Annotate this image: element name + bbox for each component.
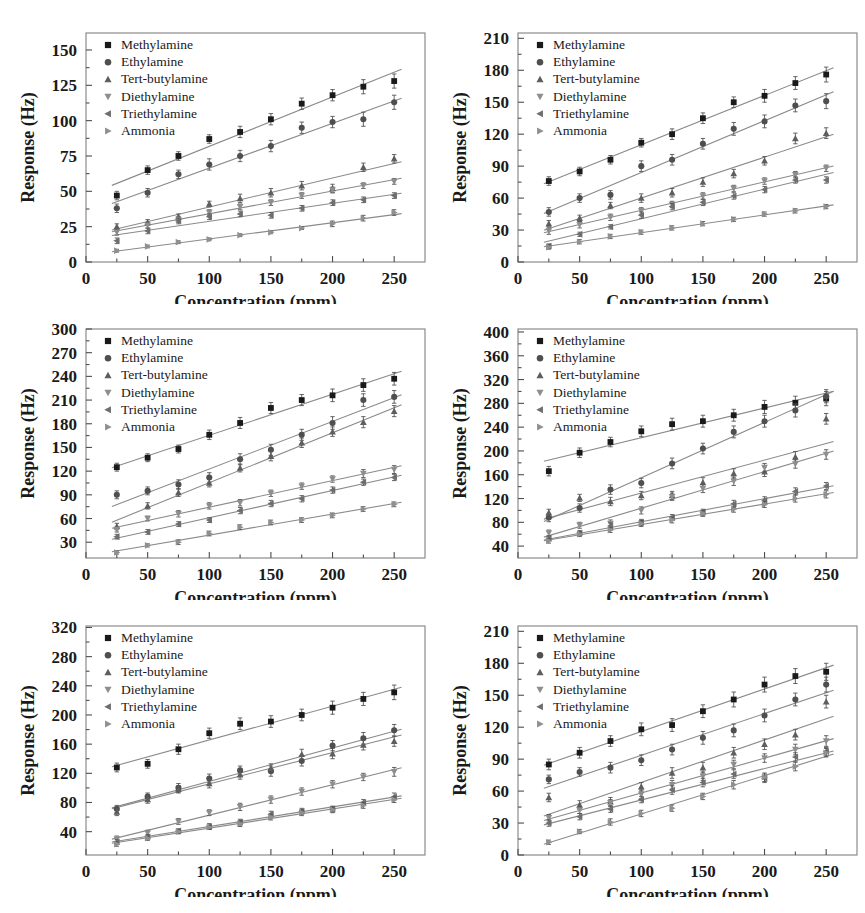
legend-label-triethylamine: Triethylamine: [121, 106, 197, 121]
y-axis-title-group: Response (Hz): [18, 685, 39, 796]
legend-marker-filled-triangle-up: [536, 372, 543, 379]
series-triethylamine: [545, 177, 829, 250]
x-tick-label: 0: [82, 862, 91, 881]
fit-line-tert-butylamine: [544, 716, 834, 816]
data-point: [546, 776, 552, 782]
x-tick-label: 250: [381, 269, 407, 288]
legend-label-tert-butylamine: Tert-butylamine: [553, 664, 640, 679]
data-point: [206, 201, 213, 207]
data-point: [175, 482, 181, 488]
data-point: [638, 508, 645, 514]
y-tick-label: 0: [501, 253, 510, 272]
y-tick-label: 240: [52, 677, 78, 696]
data-point: [669, 421, 675, 427]
legend: MethylamineEthylamineTert-butylamineDiet…: [104, 37, 208, 138]
legend-label-ammonia: Ammonia: [121, 123, 175, 138]
data-point: [762, 712, 768, 718]
series-triethylamine: [545, 482, 829, 541]
y-tick-label: 120: [484, 490, 510, 509]
data-point: [237, 420, 243, 426]
legend-marker-filled-triangle-left: [536, 406, 543, 413]
data-point: [700, 115, 706, 121]
x-tick-label: 50: [139, 269, 156, 288]
data-point: [638, 140, 644, 146]
legend-label-methylamine: Methylamine: [121, 37, 193, 52]
x-tick-label: 0: [514, 565, 523, 584]
data-point: [792, 696, 798, 702]
legend-marker-filled-triangle-right: [105, 423, 112, 430]
data-point: [176, 153, 182, 159]
data-point: [330, 92, 336, 98]
legend-marker-filled-square: [105, 338, 111, 344]
legend-label-diethylamine: Diethylamine: [121, 89, 194, 104]
series-ammonia: [546, 203, 830, 250]
data-point: [391, 99, 397, 105]
legend-label-methylamine: Methylamine: [121, 333, 193, 348]
data-point: [700, 764, 707, 770]
data-point: [608, 738, 614, 744]
data-point: [669, 131, 675, 137]
x-axis-title: Concentration (ppm): [606, 885, 769, 897]
data-point: [669, 460, 675, 466]
data-point: [268, 797, 275, 803]
fit-line-ethylamine: [112, 729, 402, 808]
legend-label-ethylamine: Ethylamine: [121, 647, 183, 662]
data-point: [669, 189, 676, 195]
x-tick-label: 200: [320, 862, 346, 881]
data-point: [206, 730, 212, 736]
x-axis-title: Concentration (ppm): [174, 885, 337, 897]
data-point: [391, 727, 397, 733]
legend-marker-filled-square: [537, 338, 543, 344]
data-point: [577, 750, 583, 756]
data-point: [268, 143, 274, 149]
data-point: [360, 397, 366, 403]
x-tick-label: 100: [197, 269, 223, 288]
y-axis-title-group: Response (Hz): [450, 92, 471, 203]
data-point: [391, 155, 398, 161]
fit-line-triethylamine: [112, 475, 402, 539]
data-point: [145, 542, 151, 549]
data-point: [823, 72, 829, 78]
legend-label-diethylamine: Diethylamine: [553, 682, 626, 697]
legend-label-ammonia: Ammonia: [121, 716, 175, 731]
fit-line-tert-butylamine: [544, 134, 834, 230]
y-tick-label: 270: [52, 344, 78, 363]
fit-line-triethylamine: [544, 173, 834, 243]
y-tick-label: 150: [52, 438, 78, 457]
legend-marker-filled-triangle-up: [104, 76, 111, 83]
legend-marker-filled-circle: [105, 652, 112, 659]
data-point: [145, 243, 151, 250]
y-tick-label: 30: [492, 814, 509, 833]
legend-marker-filled-circle: [537, 355, 544, 362]
y-tick-label: 150: [484, 686, 510, 705]
y-tick-label: 80: [60, 793, 77, 812]
legend-marker-filled-triangle-left: [104, 406, 111, 413]
y-tick-label: 90: [492, 157, 509, 176]
data-point: [762, 418, 768, 424]
data-point: [268, 453, 275, 459]
x-tick-label: 150: [690, 269, 716, 288]
x-tick-label: 250: [813, 565, 839, 584]
data-point: [360, 382, 366, 388]
data-point: [823, 130, 830, 136]
data-point: [700, 446, 706, 452]
y-tick-label: 120: [52, 462, 78, 481]
legend-marker-filled-triangle-down: [536, 94, 543, 101]
data-point: [113, 527, 120, 533]
y-tick-label: 0: [501, 846, 510, 865]
fit-line-ammonia: [112, 502, 402, 551]
data-point: [207, 236, 213, 243]
data-point: [145, 167, 151, 173]
data-point: [731, 412, 737, 418]
y-tick-label: 160: [52, 735, 78, 754]
data-point: [391, 738, 398, 744]
chart-panel-1: 0255075100125150050100150200250Concentra…: [0, 0, 432, 304]
legend-marker-filled-triangle-right: [537, 423, 544, 430]
data-point: [792, 461, 799, 467]
data-point: [762, 93, 768, 99]
data-point: [577, 169, 583, 175]
y-tick-label: 400: [484, 323, 510, 342]
legend-marker-filled-circle: [537, 652, 544, 659]
data-point: [823, 669, 829, 675]
data-point: [577, 505, 583, 511]
